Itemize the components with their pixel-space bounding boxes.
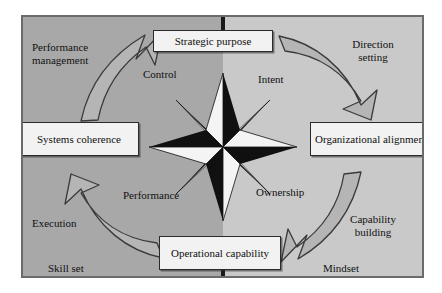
label-ownership: Ownership	[256, 186, 304, 199]
node-strategic-purpose[interactable]: Strategic purpose	[153, 30, 273, 52]
label-execution: Execution	[32, 217, 132, 230]
node-organizational-alignment[interactable]: Organizational alignment	[310, 122, 424, 156]
node-systems-coherence[interactable]: Systems coherence	[21, 122, 139, 156]
label-performance-management: Performance management	[32, 41, 142, 67]
label-control: Control	[143, 68, 177, 81]
label-mindset: Mindset	[323, 262, 423, 275]
diagram-canvas: Strategic purpose Systems coherence Orga…	[0, 0, 442, 293]
node-operational-capability[interactable]: Operational capability	[159, 236, 281, 270]
label-skill-set: Skill set	[48, 262, 148, 275]
label-capability-building: Capability building	[323, 213, 423, 239]
label-direction-setting: Direction setting	[323, 38, 423, 64]
label-performance: Performance	[123, 189, 179, 202]
label-intent: Intent	[258, 73, 284, 86]
diagram-frame: Strategic purpose Systems coherence Orga…	[21, 15, 424, 278]
arrow-bottom-left	[65, 174, 163, 258]
